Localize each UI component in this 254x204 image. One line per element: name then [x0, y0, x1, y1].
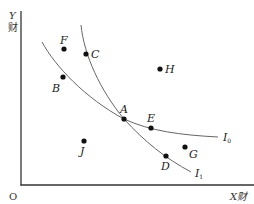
point-h [157, 66, 162, 71]
point-j [81, 138, 86, 143]
label-b: B [51, 82, 60, 95]
label-h: H [164, 63, 175, 76]
point-a [121, 116, 126, 121]
label-e: E [146, 112, 155, 125]
indifference-diagram: F C B H A E J G D I0 I1 Y 财 O X财 [0, 0, 254, 204]
label-g: G [189, 148, 198, 161]
x-axis-label: X财 [229, 191, 249, 202]
y-axis-label-unit: 财 [8, 21, 18, 33]
indifference-curve-i0 [42, 42, 218, 137]
label-i0: I0 [222, 131, 231, 144]
label-a: A [119, 103, 128, 116]
point-g [182, 144, 187, 149]
point-c [83, 51, 88, 56]
label-j: J [78, 145, 85, 158]
label-d: D [160, 160, 170, 173]
origin-label: O [9, 191, 17, 202]
y-axis-label: Y [9, 10, 17, 21]
point-e [148, 125, 153, 130]
point-b [60, 74, 65, 79]
point-d [163, 153, 168, 158]
label-i1: I1 [194, 167, 203, 180]
point-f [61, 46, 66, 51]
label-c: C [91, 48, 100, 61]
label-f: F [59, 34, 68, 47]
